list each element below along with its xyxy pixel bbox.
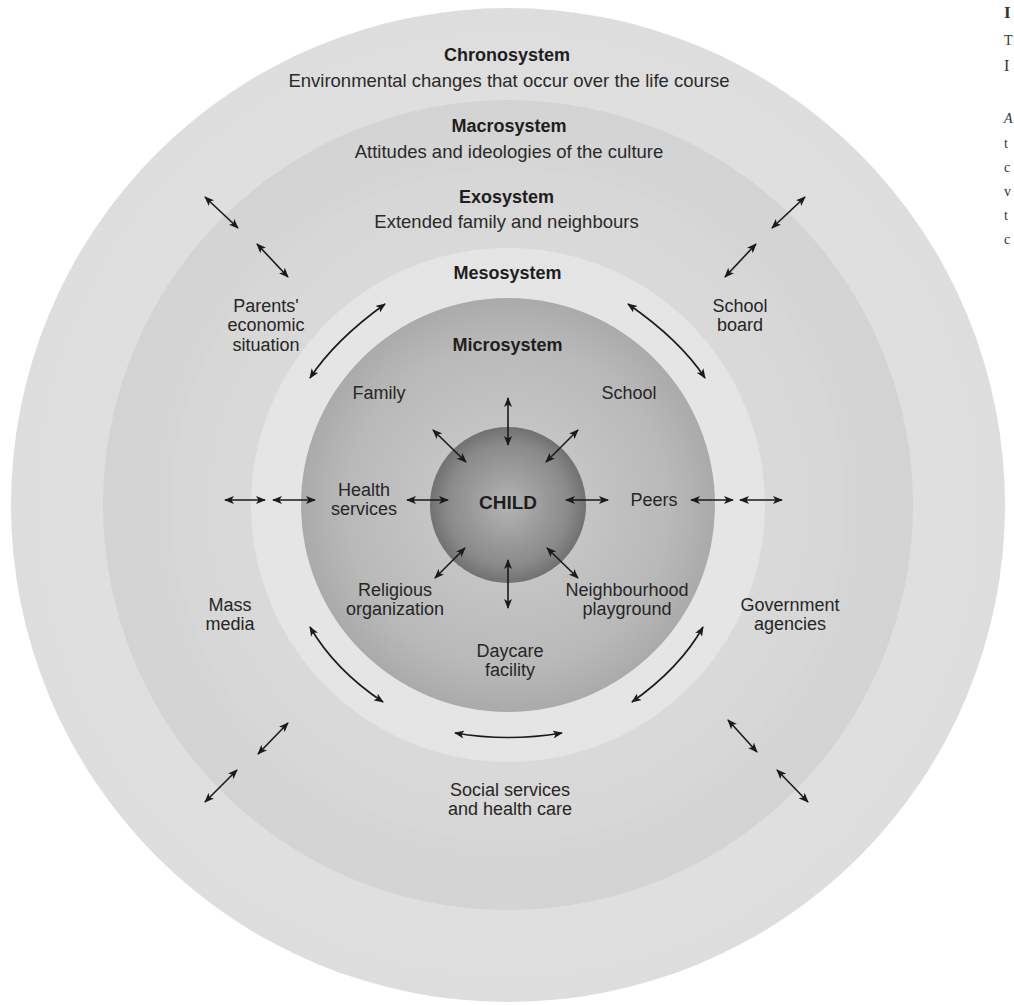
- religious-organization-label: Religious organization: [330, 581, 460, 620]
- mass-media-label: Mass media: [190, 596, 270, 635]
- exosystem-title: Exosystem: [0, 188, 1013, 207]
- government-agencies-label: Government agencies: [720, 596, 860, 635]
- family-label: Family: [334, 384, 424, 403]
- side-caption-fragment: t: [1004, 209, 1008, 223]
- arrow-child-down-left: [435, 548, 465, 578]
- macrosystem-title: Macrosystem: [0, 117, 1014, 136]
- exosystem-description: Extended family and neighbours: [0, 212, 1013, 232]
- side-caption-fragment: A: [1004, 112, 1013, 126]
- side-caption-fragment: v: [1004, 185, 1011, 199]
- macrosystem-description: Attitudes and ideologies of the culture: [0, 142, 1014, 162]
- arrow-child-up-left: [433, 430, 466, 462]
- arrow-child-down-right: [547, 548, 578, 578]
- arrow-child-up-right: [546, 430, 578, 462]
- side-caption-fragment: c: [1004, 161, 1010, 175]
- ecological-systems-diagram: Chronosystem Environmental changes that …: [0, 0, 1014, 1005]
- social-services-label: Social services and health care: [420, 781, 600, 820]
- side-caption-fragment: c: [1004, 233, 1010, 247]
- neighbourhood-playground-label: Neighbourhood playground: [552, 581, 702, 620]
- side-caption-fragment: T: [1004, 34, 1013, 48]
- daycare-facility-label: Daycare facility: [455, 642, 565, 681]
- microsystem-title: Microsystem: [0, 336, 1014, 355]
- side-caption-fragment: I: [1004, 58, 1009, 74]
- chronosystem-title: Chronosystem: [0, 46, 1014, 65]
- peers-label: Peers: [614, 491, 694, 510]
- side-caption-fragment: t: [1004, 137, 1008, 151]
- health-services-label: Health services: [316, 481, 412, 520]
- parents-economic-situation-label: Parents' economic situation: [210, 297, 322, 355]
- school-board-label: School board: [690, 297, 790, 336]
- side-caption-fragment: I: [1004, 4, 1011, 21]
- school-label: School: [584, 384, 674, 403]
- chronosystem-description: Environmental changes that occur over th…: [0, 71, 1014, 91]
- child-label: CHILD: [0, 493, 1014, 514]
- mesosystem-title: Mesosystem: [0, 264, 1014, 283]
